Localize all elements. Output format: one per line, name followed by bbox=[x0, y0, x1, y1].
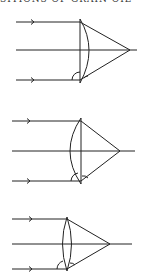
refracted-ray-bottom bbox=[67, 244, 110, 269]
angle-arc bbox=[84, 76, 88, 78]
angle-arc bbox=[57, 261, 63, 269]
refracted-ray-top bbox=[67, 219, 110, 244]
diagram-plano-convex-left bbox=[12, 118, 135, 184]
refracted-ray-top bbox=[81, 121, 120, 151]
angle-arc bbox=[72, 72, 80, 80]
diagram-plano-convex-right bbox=[16, 19, 137, 83]
angle-arc bbox=[70, 263, 75, 265]
diagram-biconvex bbox=[12, 217, 132, 272]
lens-curved-face bbox=[80, 19, 89, 83]
lens-diagrams bbox=[0, 0, 142, 279]
